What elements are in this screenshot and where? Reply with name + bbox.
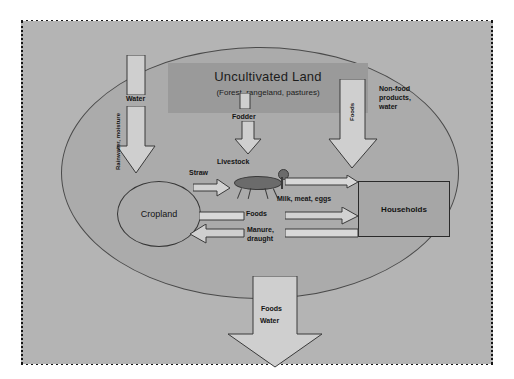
foods-to-households-arrow [285,207,359,225]
foods-from-cropland-arrow [199,210,245,222]
diagram-panel: Uncultivated Land (Forest, rangeland, pa… [21,21,493,364]
manure-draught-label: Manure, draught [247,225,274,243]
milk-meat-eggs-label: Milk, meat, eggs [277,194,331,203]
foods-right-vertical-label: Foods [348,103,356,121]
fodder-to-livestock-arrow [234,121,262,155]
water-label: Water [126,94,145,103]
outflow-water-label: Water [260,316,279,325]
households-label: Households [381,205,427,214]
milk-meat-eggs-arrow [285,175,359,189]
households-node: Households [358,181,450,237]
water-inflow-arrow-stub [123,55,149,95]
straw-arrow [193,179,231,197]
fodder-inflow-arrow-stub [238,93,252,109]
livestock-neck-icon [281,177,283,189]
cropland-label: Cropland [141,209,178,219]
non-food-products-label: Non-food products, water [379,84,411,111]
water-to-cropland-arrow [116,106,156,174]
straw-label: Straw [189,168,208,177]
foods-nonfood-inflow-arrow [328,79,378,169]
outflow-foods-label: Foods [261,304,282,313]
manure-draught-arrow [189,224,245,244]
diagram-canvas: Uncultivated Land (Forest, rangeland, pa… [0,0,514,379]
foods-center-label: Foods [246,209,267,218]
rainwater-moisture-label: Rainwater, moisture [114,113,122,170]
livestock-label: Livestock [217,157,249,166]
fodder-label: Fodder [232,112,256,121]
manure-return-bar-arrow [285,227,359,239]
